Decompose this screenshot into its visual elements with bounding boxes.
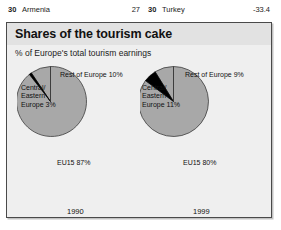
chart-panel: Shares of the tourism cake % of Europe's…: [6, 22, 272, 218]
table-cell-rank-left: 30: [8, 4, 16, 15]
chart-subtitle: % of Europe's total tourism earnings: [15, 48, 151, 58]
table-cell-rank-right: 30: [148, 4, 156, 15]
pie-year-label-1990: 1990: [67, 208, 84, 216]
pie-label-eu15-1999: EU15 80%: [183, 159, 216, 167]
pie-label-central-eastern-1999: Central/ Eastern Europe 11%: [142, 84, 188, 109]
pie-year-label-1999: 1999: [193, 208, 210, 216]
pie-label-rest-of-europe-1999: Rest of Europe 9%: [185, 71, 244, 79]
table-cell-country-right: Turkey: [162, 4, 185, 15]
table-cell-value-right: -33.4: [238, 4, 270, 15]
table-remnant-row: 30 Armenia 27 30 Turkey -33.4: [0, 0, 281, 18]
pie-label-eu15-1990: EU15 87%: [57, 159, 90, 167]
pie-label-rest-of-europe-1990: Rest of Europe 10%: [60, 71, 123, 79]
pie-label-central-eastern-1990: Central/ Eastern Europe 3%: [21, 84, 67, 109]
table-cell-country-left: Armenia: [22, 4, 50, 15]
plot-area: Central/ Eastern Europe 3% Rest of Europ…: [7, 61, 273, 219]
table-cell-value-left: 27: [118, 4, 140, 15]
chart-title: Shares of the tourism cake: [15, 27, 172, 41]
